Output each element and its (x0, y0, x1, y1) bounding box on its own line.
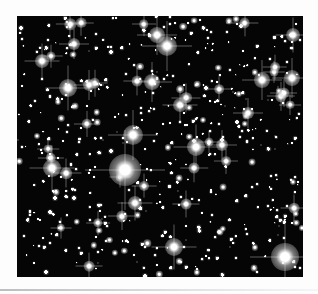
star (211, 49, 214, 52)
star (274, 46, 276, 48)
star (73, 188, 77, 192)
star (233, 256, 237, 260)
star-field-photo (17, 16, 303, 277)
star (229, 246, 231, 248)
star (136, 63, 144, 71)
star (224, 30, 228, 34)
star (181, 133, 184, 136)
diffraction-spike (174, 225, 175, 270)
star (148, 110, 152, 114)
star (213, 236, 217, 240)
star (287, 143, 289, 145)
star (254, 57, 257, 60)
star (22, 234, 26, 238)
star (37, 244, 41, 248)
star (159, 193, 161, 195)
star (269, 208, 273, 212)
star (88, 172, 91, 175)
star (77, 246, 81, 250)
star (274, 222, 276, 224)
star (293, 136, 298, 141)
diffraction-spike (81, 16, 82, 36)
star (94, 235, 97, 238)
star (20, 85, 23, 88)
star (241, 49, 244, 52)
star (42, 237, 45, 240)
star (240, 129, 244, 133)
diffraction-spike (51, 45, 52, 68)
star (205, 254, 208, 257)
star (160, 205, 164, 209)
star (52, 213, 55, 216)
star (23, 73, 26, 76)
star (272, 35, 276, 39)
diffraction-spike (209, 131, 210, 153)
star (33, 183, 36, 186)
star (220, 272, 225, 277)
star (211, 42, 214, 45)
diffraction-spike (86, 111, 87, 137)
diffraction-spike (196, 125, 197, 170)
star (278, 225, 280, 227)
star (114, 116, 117, 119)
star (106, 237, 112, 243)
star (25, 254, 28, 257)
star (169, 122, 172, 125)
star (91, 242, 97, 248)
star (243, 194, 248, 199)
diffraction-spike (133, 110, 134, 160)
diffraction-spike (48, 138, 49, 160)
star (186, 124, 189, 127)
star (187, 63, 190, 66)
star (54, 233, 59, 238)
diffraction-spike (222, 130, 223, 160)
star (289, 178, 293, 182)
star (197, 199, 200, 202)
star (194, 81, 201, 88)
star (215, 193, 217, 195)
star (88, 152, 92, 156)
star (94, 137, 97, 140)
star (209, 221, 211, 223)
star (274, 173, 278, 177)
star (291, 142, 294, 145)
star (56, 156, 59, 159)
star (252, 128, 255, 131)
star (58, 115, 64, 121)
star (18, 25, 24, 31)
star (151, 106, 155, 110)
star (234, 120, 239, 125)
star (184, 265, 189, 270)
star (185, 239, 187, 241)
star (124, 71, 128, 75)
star (285, 60, 289, 64)
diffraction-spike (152, 62, 153, 102)
star (144, 148, 147, 151)
star (52, 195, 58, 201)
star (235, 199, 240, 204)
star (79, 127, 82, 130)
diffraction-spike (226, 149, 227, 173)
diffraction-spike (61, 218, 62, 239)
star (200, 211, 203, 214)
star (276, 209, 280, 213)
star (227, 41, 230, 44)
star (187, 178, 189, 180)
star (196, 116, 199, 119)
star (65, 213, 68, 216)
diffraction-spike (70, 16, 71, 38)
star (162, 122, 165, 125)
star (94, 119, 101, 126)
star (269, 187, 273, 191)
star (207, 42, 209, 44)
diffraction-spike (244, 16, 245, 37)
star (182, 111, 185, 114)
star (101, 218, 103, 220)
star (116, 131, 118, 133)
star (185, 163, 187, 165)
star (55, 99, 61, 105)
diffraction-spike (194, 155, 195, 183)
star (88, 205, 92, 209)
star (154, 253, 158, 257)
star (234, 107, 236, 109)
